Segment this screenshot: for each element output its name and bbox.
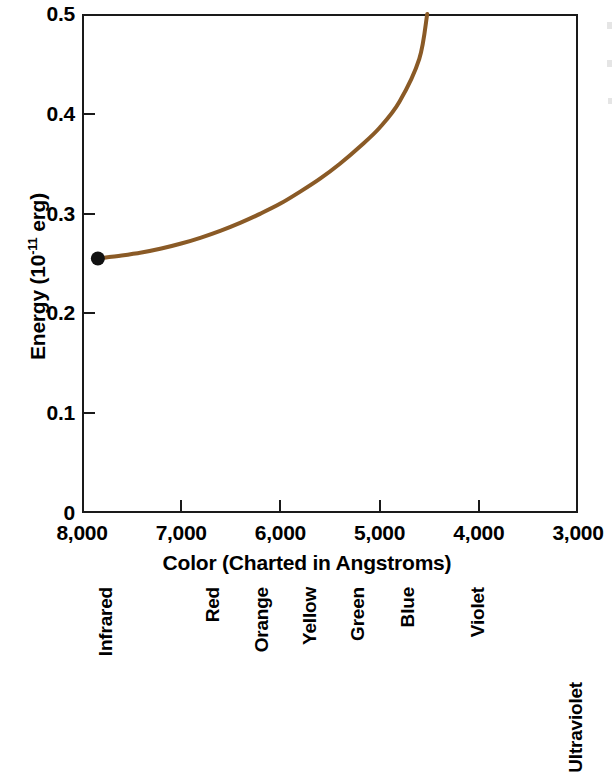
scan-artifact [607, 22, 612, 29]
curve-start-marker [91, 252, 105, 266]
scan-artifact [607, 60, 612, 67]
energy-curve [98, 14, 427, 259]
scan-artifact [608, 98, 612, 104]
color-band-label: Ultraviolet [565, 682, 587, 773]
